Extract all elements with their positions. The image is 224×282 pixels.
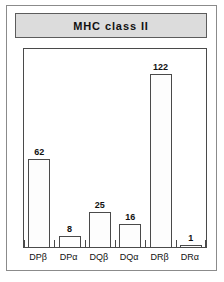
x-axis-label-DQβ: DQβ (89, 252, 108, 262)
x-axis-tick (115, 240, 116, 247)
x-axis-label-DRα: DRα (181, 252, 199, 262)
bar-DQβ (89, 212, 111, 247)
figure-panel: MHC class II 62825161221 DPβDPαDQβDQαDRβ… (6, 5, 217, 271)
x-axis-label-DRβ: DRβ (150, 252, 168, 262)
bar-DPβ (28, 159, 50, 247)
bar-DRα (180, 245, 202, 247)
chart-title-bar: MHC class II (15, 13, 207, 38)
bar-DQα (119, 224, 141, 247)
plot-area: 62825161221 (23, 48, 207, 248)
bar-value-label: 122 (141, 62, 181, 72)
x-axis-label-DQα: DQα (120, 252, 139, 262)
x-axis-tick (176, 240, 177, 247)
bar-value-label: 16 (110, 212, 150, 222)
x-axis-tick (54, 240, 55, 247)
x-axis-tick (205, 240, 206, 247)
bar-value-label: 25 (80, 200, 120, 210)
x-axis-label-DPα: DPα (60, 252, 78, 262)
bar-DPα (59, 236, 81, 247)
bar-value-label: 8 (50, 224, 90, 234)
x-axis-tick (85, 240, 86, 247)
x-axis-tick (145, 240, 146, 247)
x-axis-labels: DPβDPαDQβDQαDRβDRα (23, 252, 207, 268)
bars-container: 62825161221 (24, 49, 206, 247)
bar-value-label: 62 (19, 147, 59, 157)
x-axis-label-DPβ: DPβ (29, 252, 47, 262)
x-axis-tick (24, 240, 25, 247)
page-title: MHC class II (73, 20, 149, 32)
bar-DRβ (150, 74, 172, 247)
